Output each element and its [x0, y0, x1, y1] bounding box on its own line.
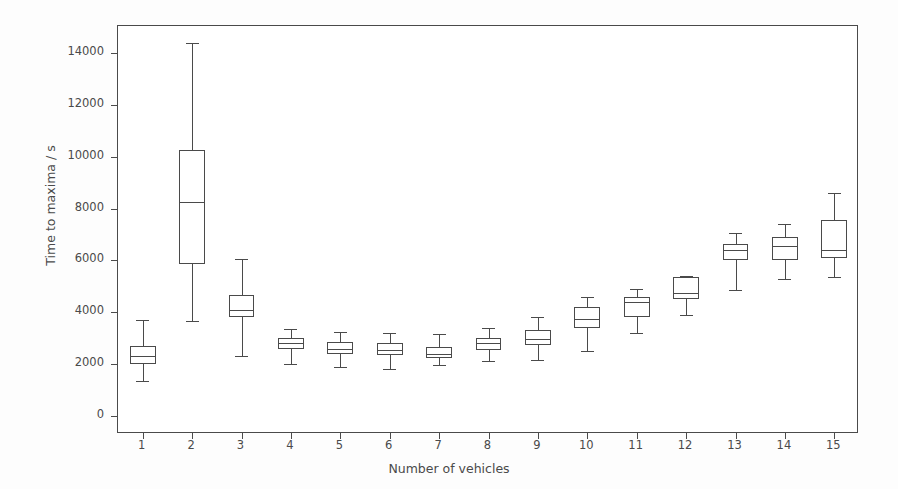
x-axis-tick-label: 12 [678, 438, 693, 452]
y-axis-tick [111, 312, 118, 313]
x-axis-tick-label: 2 [187, 438, 194, 452]
plot-frame [117, 25, 858, 433]
x-axis-tick-label: 15 [826, 438, 841, 452]
y-axis-tick-label: 10000 [0, 148, 104, 162]
x-axis-tick-label: 8 [484, 438, 491, 452]
y-axis-tick-label: 0 [0, 407, 104, 421]
x-axis-tick-label: 10 [579, 438, 594, 452]
y-axis-tick-label: 6000 [0, 251, 104, 265]
boxplot-15 [118, 26, 859, 432]
x-axis-tick-label: 7 [434, 438, 441, 452]
median-line [821, 250, 847, 251]
y-axis-tick [111, 364, 118, 365]
plot-area [118, 26, 857, 432]
y-axis-tick-label: 4000 [0, 303, 104, 317]
y-axis-tick [111, 157, 118, 158]
y-axis-tick [111, 416, 118, 417]
y-axis-tick [111, 105, 118, 106]
box-iqr [821, 220, 847, 258]
x-axis-tick-label: 6 [385, 438, 392, 452]
y-axis-tick-label: 8000 [0, 200, 104, 214]
x-axis-tick-label: 3 [237, 438, 244, 452]
x-axis-tick-label: 13 [727, 438, 742, 452]
x-axis-title: Number of vehicles [0, 461, 898, 476]
whisker-upper [834, 193, 835, 220]
y-axis-tick [111, 53, 118, 54]
whisker-lower [834, 258, 835, 277]
y-axis-tick-label: 12000 [0, 96, 104, 110]
x-axis-tick-label: 11 [628, 438, 643, 452]
y-axis-tick-label: 14000 [0, 44, 104, 58]
y-axis-tick [111, 260, 118, 261]
figure: Time to maxima / s 020004000600080001000… [0, 0, 898, 489]
x-axis-tick-label: 9 [533, 438, 540, 452]
x-axis-tick-label: 14 [777, 438, 792, 452]
x-axis-tick-label: 1 [138, 438, 145, 452]
y-axis-tick [111, 209, 118, 210]
cap-lower [828, 277, 841, 278]
x-axis-tick-label: 5 [336, 438, 343, 452]
x-axis-tick-label: 4 [286, 438, 293, 452]
y-axis-tick-label: 2000 [0, 355, 104, 369]
cap-upper [828, 193, 841, 194]
